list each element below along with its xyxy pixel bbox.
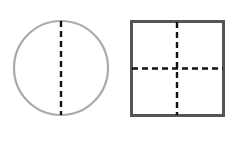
symmetry-diagram [0, 0, 232, 153]
circle-shape [14, 21, 108, 115]
square-shape [132, 22, 224, 116]
